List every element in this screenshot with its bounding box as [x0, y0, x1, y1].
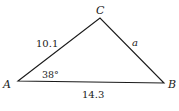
- side-label-ac: 10.1: [36, 38, 58, 49]
- vertex-label-b: B: [167, 78, 176, 91]
- vertex-label-c: C: [96, 4, 105, 17]
- triangle-diagram: C A B 10.1 a 14.3 38°: [0, 0, 179, 111]
- vertex-label-a: A: [2, 78, 11, 91]
- angle-label-a: 38°: [42, 69, 59, 80]
- side-label-ab: 14.3: [82, 89, 104, 100]
- side-label-cb: a: [132, 37, 138, 48]
- triangle-abc: [18, 18, 164, 83]
